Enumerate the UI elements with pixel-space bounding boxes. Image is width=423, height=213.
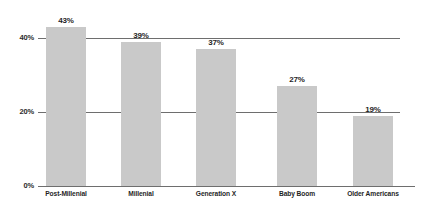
bar-baby-boom[interactable] <box>277 86 317 186</box>
x-axis-label-post-millenial: Post-Millenial <box>28 190 104 197</box>
bar-value-older-americans: 19% <box>353 105 393 114</box>
x-axis-label-baby-boom: Baby Boom <box>259 190 335 197</box>
bar-group-baby-boom[interactable]: 27% <box>277 86 317 186</box>
bar-value-baby-boom: 27% <box>277 75 317 84</box>
bar-value-post-millenial: 43% <box>46 16 86 25</box>
bar-chart: 40% 20% 0% 43% 39% 37% 27% <box>0 0 423 213</box>
x-axis-label-older-americans: Older Americans <box>335 190 411 197</box>
bar-value-millenial: 39% <box>121 31 161 40</box>
bar-group-post-millenial[interactable]: 43% <box>46 27 86 186</box>
x-axis-label-generation-x: Generation X <box>178 190 254 197</box>
bar-millenial[interactable] <box>121 42 161 186</box>
bars-layer: 43% 39% 37% 27% 19% <box>0 0 423 213</box>
plot-area: 40% 20% 0% 43% 39% 37% 27% <box>0 0 423 213</box>
x-axis-label-millenial: Millenial <box>103 190 179 197</box>
bar-value-generation-x: 37% <box>196 38 236 47</box>
bar-group-older-americans[interactable]: 19% <box>353 116 393 186</box>
bar-group-generation-x[interactable]: 37% <box>196 49 236 186</box>
bar-older-americans[interactable] <box>353 116 393 186</box>
bar-generation-x[interactable] <box>196 49 236 186</box>
bar-post-millenial[interactable] <box>46 27 86 186</box>
bar-group-millenial[interactable]: 39% <box>121 42 161 186</box>
